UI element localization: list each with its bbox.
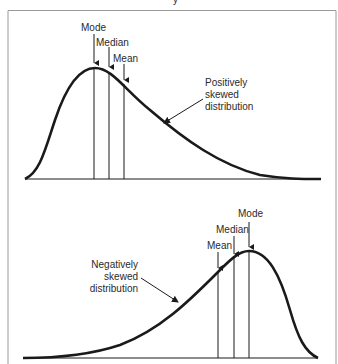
mean-label: Mean	[113, 53, 138, 64]
negative-caption-line-3: distribution	[90, 283, 138, 294]
positive-caption-line-1: Positively	[205, 77, 247, 88]
skewed-distributions-figure: y Mode Median Mean Positively skewed dis…	[0, 0, 338, 364]
mode-label: Mode	[238, 208, 263, 219]
negative-skew-panel: Mean Median Mode Negatively skewed distr…	[23, 208, 318, 358]
negative-skew-curve	[23, 251, 318, 358]
mode-label: Mode	[81, 22, 106, 33]
positive-caption-pointer-icon	[164, 99, 203, 123]
median-label: Median	[216, 224, 249, 235]
cropped-title-fragment: y	[173, 0, 178, 5]
median-label: Median	[96, 37, 129, 48]
negative-caption-line-2: skewed	[104, 271, 138, 282]
negative-caption-pointer-icon	[141, 278, 178, 302]
positive-caption-line-2: skewed	[205, 89, 239, 100]
negative-caption-line-1: Negatively	[91, 259, 138, 270]
positive-caption-line-3: distribution	[205, 101, 253, 112]
mean-label: Mean	[207, 240, 232, 251]
positive-skew-curve	[25, 68, 321, 179]
figure-border	[8, 11, 336, 364]
positive-skew-panel: Mode Median Mean Positively skewed distr…	[25, 22, 321, 179]
